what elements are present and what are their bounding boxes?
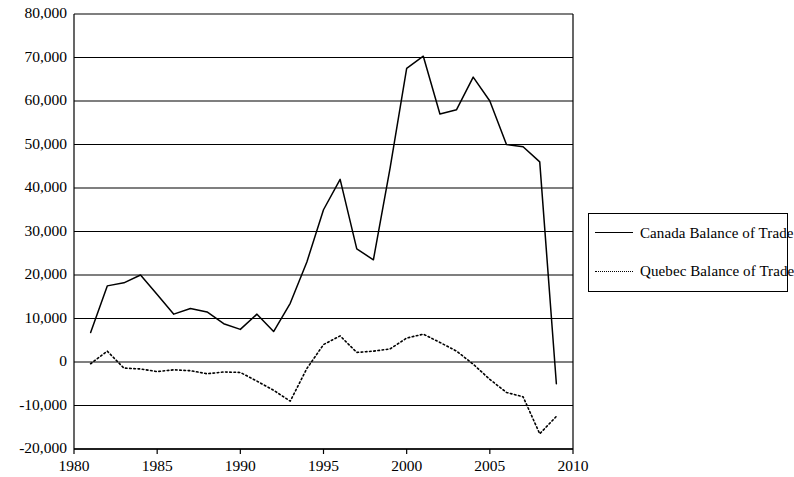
x-axis-tick-label: 1980 <box>44 457 104 475</box>
y-axis-tick-label: -20,000 <box>19 439 67 457</box>
y-axis-tick-label: 0 <box>59 352 67 370</box>
legend-line-sample-solid <box>595 232 633 234</box>
y-axis-tick-label: 30,000 <box>24 222 67 240</box>
y-axis-tick-label: 80,000 <box>24 4 67 22</box>
series-line-canada <box>91 56 557 384</box>
y-axis-tick-label: 40,000 <box>24 178 67 196</box>
chart-legend: Canada Balance of Trade Quebec Balance o… <box>588 213 788 292</box>
x-axis-tick-label: 2000 <box>377 457 437 475</box>
x-axis-tick-label: 2010 <box>543 457 603 475</box>
x-axis-tick-label: 1990 <box>210 457 270 475</box>
y-axis-tick-label: -10,000 <box>19 396 67 414</box>
legend-line-sample-dotted <box>595 271 633 273</box>
x-axis-tick-label: 1985 <box>127 457 187 475</box>
x-axis-tick-label: 2005 <box>460 457 520 475</box>
y-axis-tick-label: 10,000 <box>24 309 67 327</box>
legend-label-canada: Canada Balance of Trade <box>640 225 794 242</box>
legend-item-canada: Canada Balance of Trade <box>589 214 787 253</box>
y-axis-tick-label: 70,000 <box>24 48 67 66</box>
legend-item-quebec: Quebec Balance of Trade <box>589 253 787 292</box>
y-axis-tick-label: 50,000 <box>24 135 67 153</box>
series-line-quebec <box>91 334 557 434</box>
legend-label-quebec: Quebec Balance of Trade <box>640 263 794 280</box>
y-axis-tick-label: 60,000 <box>24 91 67 109</box>
y-axis-tick-label: 20,000 <box>24 265 67 283</box>
x-axis-tick-label: 1995 <box>294 457 354 475</box>
